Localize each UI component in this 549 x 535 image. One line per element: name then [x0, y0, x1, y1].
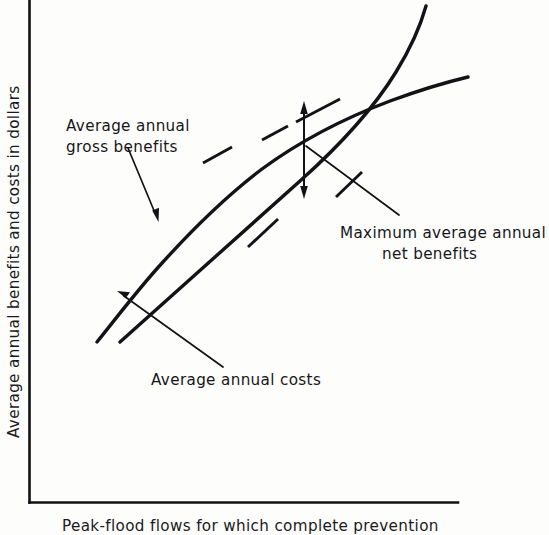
- gross-benefits-label-line2: gross benefits: [66, 138, 178, 156]
- net-benefits-arrowhead-up: [300, 101, 308, 114]
- max-net-benefits-label-line1: Maximum average annual: [340, 224, 546, 242]
- leader-average-annual-costs: [124, 296, 223, 367]
- tangent-segments-group: [203, 99, 362, 247]
- gross-benefits-label-line1: Average annual: [66, 117, 190, 135]
- max-net-benefits-label-line2: net benefits: [382, 245, 477, 263]
- y-axis-label: Average annual benefits and costs in dol…: [5, 85, 23, 438]
- net-benefits-arrowhead-down: [300, 186, 308, 199]
- leader-gross-benefits: [128, 148, 155, 213]
- tangent-benefits-lower-icon: [203, 147, 232, 163]
- leader-max-net-benefits: [306, 146, 399, 215]
- leader-costs-arrowhead: [117, 291, 130, 298]
- tangent-benefits-mid-icon: [262, 126, 288, 140]
- x-axis-label: Peak-flood flows for which complete prev…: [62, 517, 439, 535]
- benefit-cost-diagram: Average annual benefits and costs in dol…: [0, 0, 549, 535]
- leader-lines-group: [117, 146, 399, 367]
- average-annual-costs-curve: [120, 6, 426, 342]
- average-annual-costs-label: Average annual costs: [151, 371, 321, 389]
- figure-container: Average annual benefits and costs in dol…: [0, 0, 549, 535]
